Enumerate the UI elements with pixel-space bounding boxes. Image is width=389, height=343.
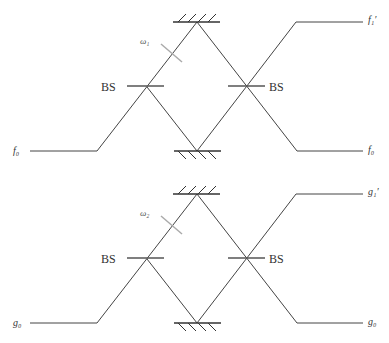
output-label-f0: f₀ <box>368 144 374 155</box>
input-label-f0: f₀ <box>13 145 19 156</box>
bs-label-right-bottom: BS <box>269 252 284 267</box>
bs-label-left-top: BS <box>101 80 116 95</box>
interferometer-top <box>30 14 363 159</box>
output-label-f1prime: f₁′ <box>368 14 376 25</box>
bs-label-right-top: BS <box>269 80 284 95</box>
phase-label-omega1: ω₁ <box>140 36 149 46</box>
interferometer-bottom <box>30 186 363 331</box>
output-label-g0: g₀ <box>368 316 376 327</box>
phase-label-omega2: ω₂ <box>140 208 149 218</box>
bs-label-left-bottom: BS <box>101 252 116 267</box>
diagram-canvas <box>0 0 389 343</box>
input-label-g0: g₀ <box>13 317 21 328</box>
output-label-g1prime: g₁′ <box>368 186 379 197</box>
